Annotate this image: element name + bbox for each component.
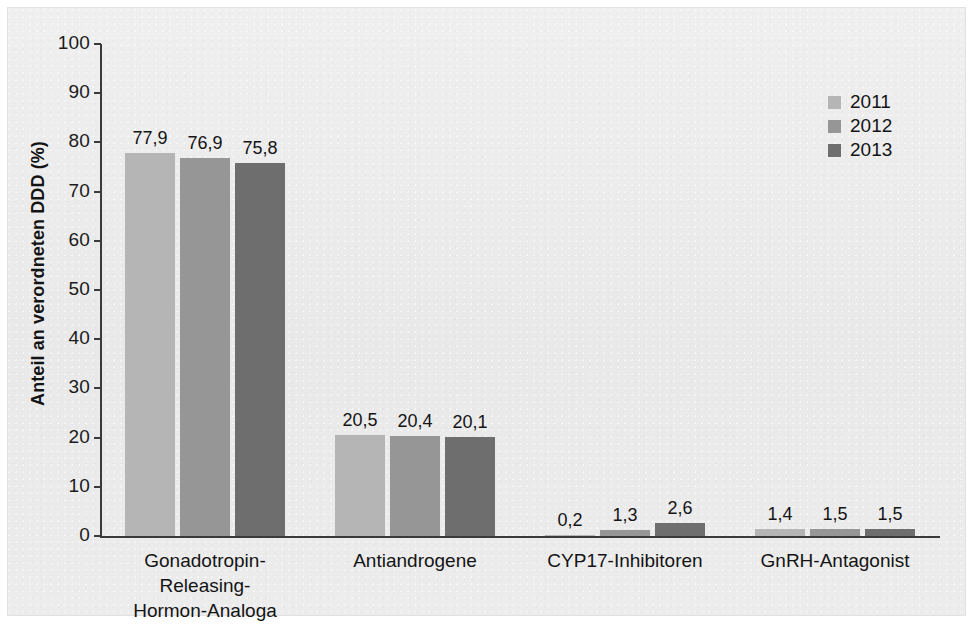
bar-2013-group-4: 1,5	[865, 529, 915, 536]
bar-value-label: 20,1	[452, 412, 487, 433]
bar-fill	[390, 436, 440, 536]
bar-value-label: 76,9	[187, 133, 222, 154]
bar-fill	[235, 163, 285, 536]
bar-value-label: 1,5	[822, 504, 847, 525]
bar-2011-group-3: 0,2	[545, 535, 595, 536]
plot-area: Anteil an verordneten DDD (%) 0102030405…	[8, 8, 965, 615]
y-tick-label-80: 80	[44, 130, 90, 152]
y-tick-label-100: 100	[44, 32, 90, 54]
bar-fill	[445, 437, 495, 536]
bar-value-label: 77,9	[132, 128, 167, 149]
y-tick-label-0: 0	[44, 524, 90, 546]
bar-value-label: 1,4	[767, 504, 792, 525]
bar-2013-group-3: 2,6	[655, 523, 705, 536]
x-axis-line	[100, 536, 940, 538]
legend-label: 2012	[850, 115, 892, 137]
bar-2013-group-2: 20,1	[445, 437, 495, 536]
bar-fill	[180, 158, 230, 536]
legend-label: 2011	[850, 91, 891, 113]
bar-value-label: 75,8	[242, 138, 277, 159]
bar-value-label: 20,4	[397, 411, 432, 432]
bar-2011-group-2: 20,5	[335, 435, 385, 536]
bar-fill	[600, 530, 650, 536]
bar-fill	[335, 435, 385, 536]
bar-value-label: 2,6	[667, 498, 692, 519]
category-label-3: CYP17-Inhibitoren	[520, 548, 730, 573]
legend-swatch-icon	[828, 144, 841, 157]
bar-fill	[125, 153, 175, 536]
legend-item-2013: 2013	[828, 138, 892, 162]
y-tick-label-60: 60	[44, 229, 90, 251]
bar-fill	[755, 529, 805, 536]
y-axis-line	[100, 44, 102, 537]
bar-2012-group-3: 1,3	[600, 530, 650, 536]
legend-swatch-icon	[828, 120, 841, 133]
category-label-2: Antiandrogene	[310, 548, 520, 573]
chart-figure: Anteil an verordneten DDD (%) 0102030405…	[8, 8, 965, 615]
bar-2012-group-4: 1,5	[810, 529, 860, 536]
y-tick-label-20: 20	[44, 426, 90, 448]
category-label-4: GnRH-Antagonist	[730, 548, 940, 573]
bar-2011-group-1: 77,9	[125, 153, 175, 536]
bar-value-label: 1,3	[612, 505, 637, 526]
bar-fill	[810, 529, 860, 536]
bar-value-label: 20,5	[342, 410, 377, 431]
bar-2012-group-2: 20,4	[390, 436, 440, 536]
legend-item-2011: 2011	[828, 90, 892, 114]
bar-2012-group-1: 76,9	[180, 158, 230, 536]
bar-fill	[545, 535, 595, 536]
bar-2013-group-1: 75,8	[235, 163, 285, 536]
y-tick-label-70: 70	[44, 180, 90, 202]
y-tick-label-90: 90	[44, 81, 90, 103]
bar-fill	[865, 529, 915, 536]
y-tick-label-30: 30	[44, 376, 90, 398]
bar-value-label: 1,5	[877, 504, 902, 525]
legend-item-2012: 2012	[828, 114, 892, 138]
y-tick-label-40: 40	[44, 327, 90, 349]
y-tick-label-10: 10	[44, 475, 90, 497]
y-tick-label-50: 50	[44, 278, 90, 300]
legend-label: 2013	[850, 139, 892, 161]
legend-swatch-icon	[828, 96, 841, 109]
bar-fill	[655, 523, 705, 536]
bar-value-label: 0,2	[557, 510, 582, 531]
bar-2011-group-4: 1,4	[755, 529, 805, 536]
category-label-1: Gonadotropin-Releasing- Hormon-Analoga	[100, 548, 310, 623]
legend: 201120122013	[828, 90, 892, 162]
